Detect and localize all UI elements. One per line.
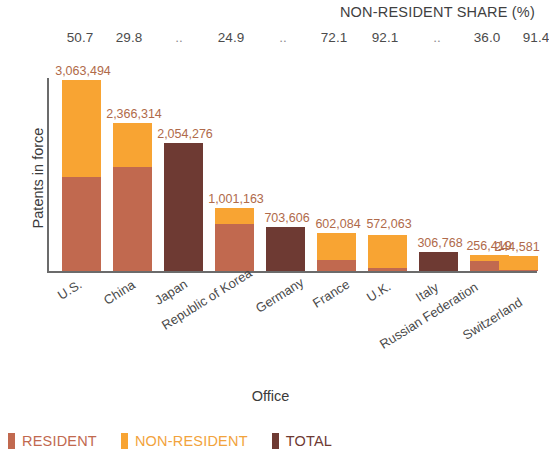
- bar-segment-resident: [317, 260, 356, 271]
- bar-value-italy: 306,768: [417, 236, 462, 250]
- bar-value-china: 2,366,314: [106, 107, 162, 121]
- bar-segment-non-resident: [215, 208, 254, 224]
- bar-china[interactable]: [113, 123, 152, 271]
- legend: RESIDENT NON-RESIDENT TOTAL: [8, 433, 332, 449]
- bar-segment-total: [164, 143, 203, 271]
- legend-swatch-icon: [121, 433, 128, 449]
- bar-japan[interactable]: [164, 143, 203, 271]
- bar-segment-total: [419, 252, 458, 271]
- bar-us[interactable]: [62, 80, 101, 271]
- bar-value-france: 602,084: [315, 217, 360, 231]
- bar-germany[interactable]: [266, 227, 305, 271]
- bar-segment-non-resident: [317, 233, 356, 260]
- bar-uk[interactable]: [368, 235, 407, 271]
- bar-france[interactable]: [317, 233, 356, 271]
- bar-republic-of-korea[interactable]: [215, 208, 254, 271]
- legend-swatch-icon: [272, 433, 279, 449]
- bar-segment-total: [266, 227, 305, 271]
- legend-label-total: TOTAL: [286, 433, 332, 449]
- bar-value-germany: 703,606: [264, 211, 309, 225]
- bar-value-switzerland: 244,581: [494, 240, 539, 254]
- legend-swatch-icon: [8, 433, 15, 449]
- bar-value-us: 3,063,494: [55, 64, 111, 78]
- bar-segment-resident: [215, 224, 254, 271]
- bar-segment-non-resident: [113, 123, 152, 167]
- bar-value-uk: 572,063: [366, 217, 411, 231]
- bar-switzerland[interactable]: [499, 256, 538, 271]
- bar-segment-resident: [368, 268, 407, 271]
- bar-segment-non-resident: [62, 80, 101, 177]
- bar-italy[interactable]: [419, 252, 458, 271]
- legend-label-non-resident: NON-RESIDENT: [135, 433, 248, 449]
- bar-segment-non-resident: [499, 256, 538, 270]
- legend-item-total[interactable]: TOTAL: [272, 433, 332, 449]
- bar-segment-resident: [499, 270, 538, 271]
- legend-item-non-resident[interactable]: NON-RESIDENT: [121, 433, 248, 449]
- bar-value-japan: 2,054,276: [157, 127, 213, 141]
- bar-value-republic-of-korea: 1,001,163: [208, 192, 264, 206]
- legend-label-resident: RESIDENT: [22, 433, 97, 449]
- bar-segment-resident: [62, 177, 101, 271]
- legend-item-resident[interactable]: RESIDENT: [8, 433, 97, 449]
- bar-segment-resident: [113, 167, 152, 271]
- bar-segment-non-resident: [368, 235, 407, 268]
